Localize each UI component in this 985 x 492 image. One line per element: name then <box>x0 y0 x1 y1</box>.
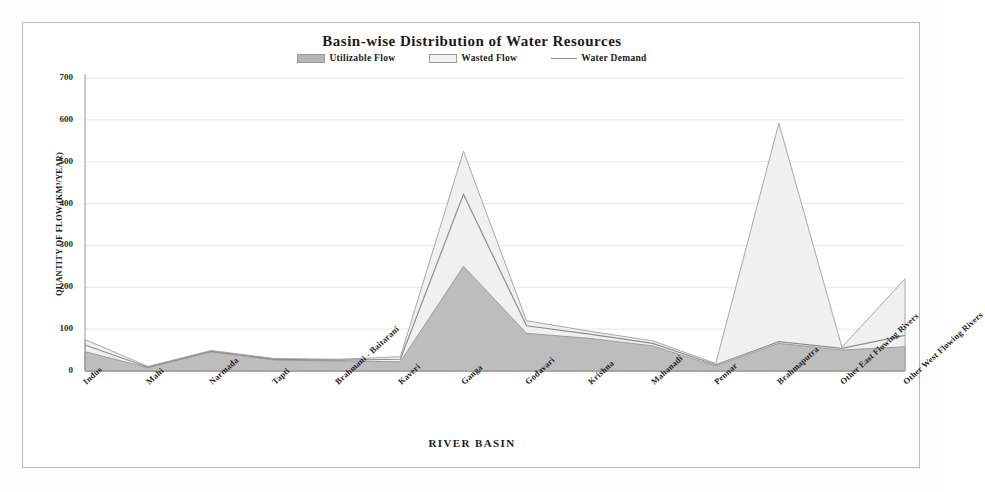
plot-area: 0100200300400500600700 IndusMahiNarmadaT… <box>23 23 921 469</box>
y-tick-label: 600 <box>33 114 73 124</box>
y-tick-label: 700 <box>33 72 73 82</box>
y-tick-label: 100 <box>33 323 73 333</box>
y-axis-title: QUANTITY OF FLOW (KM³/YEAR) <box>54 144 64 304</box>
series-layer <box>85 123 905 371</box>
y-tick-label: 500 <box>33 156 73 166</box>
y-tick-label: 300 <box>33 239 73 249</box>
y-tick-label: 200 <box>33 281 73 291</box>
y-tick-label: 400 <box>33 198 73 208</box>
x-axis-title: RIVER BASIN <box>23 437 921 449</box>
chart-frame: Basin-wise Distribution of Water Resourc… <box>22 22 920 468</box>
chart-svg <box>23 23 921 469</box>
y-tick-label: 0 <box>33 365 73 375</box>
